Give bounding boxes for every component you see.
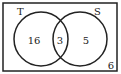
intersection-count: 3 [57, 35, 63, 46]
t-only-count: 16 [28, 35, 41, 46]
s-only-count: 5 [83, 35, 89, 46]
set-t-label: T [17, 6, 24, 17]
venn-diagram: T S 16 3 5 6 [0, 0, 121, 74]
outside-count: 6 [108, 60, 114, 71]
set-s-label: S [94, 6, 101, 17]
